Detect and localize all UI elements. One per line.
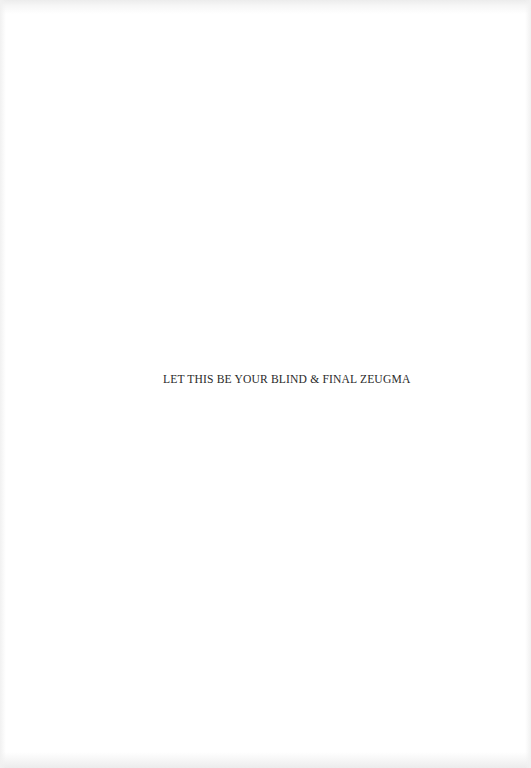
scan-edge-right — [525, 0, 531, 768]
epigraph-text: LET THIS BE YOUR BLIND & FINAL ZEUGMA — [163, 373, 377, 387]
scan-edge-left — [0, 0, 6, 768]
scan-edge-bottom — [0, 752, 531, 768]
book-page: LET THIS BE YOUR BLIND & FINAL ZEUGMA — [0, 0, 531, 768]
scan-edge-top — [0, 0, 531, 14]
